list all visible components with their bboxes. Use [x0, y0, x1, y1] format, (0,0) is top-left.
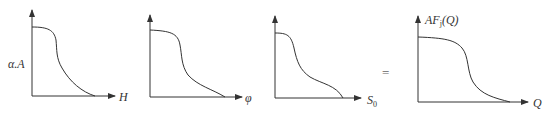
- curve: [150, 30, 225, 97]
- equals-sign: =: [382, 65, 389, 80]
- panel-3: S0: [275, 16, 377, 109]
- curve: [418, 37, 510, 102]
- y-axis-label: α.A: [8, 57, 25, 71]
- panel-1: α.A H: [8, 10, 129, 104]
- x-axis-label: S0: [367, 93, 377, 109]
- panel-2: φ: [150, 15, 252, 105]
- curve: [32, 27, 95, 96]
- panel-4: AFj(Q) Q: [418, 13, 542, 110]
- x-axis-label: φ: [245, 91, 252, 105]
- diagram-canvas: α.A H φ S0 = AFj(Q) Q: [0, 0, 553, 122]
- y-axis-label: AFj(Q): [424, 13, 459, 28]
- x-axis-label: Q: [533, 96, 542, 110]
- curve: [275, 33, 343, 98]
- x-axis-label: H: [118, 90, 129, 104]
